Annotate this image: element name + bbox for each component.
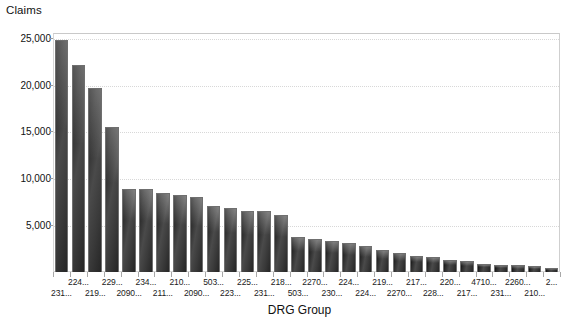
bar-highlight	[225, 209, 237, 233]
bar[interactable]	[105, 127, 119, 272]
x-axis-tick-label: 217...	[406, 277, 427, 287]
x-axis-tick-label: 225...	[237, 277, 258, 287]
bar[interactable]	[291, 237, 305, 272]
bar-highlight	[157, 194, 169, 224]
bar-highlight	[258, 212, 270, 235]
x-axis-tick-label: 2260...	[505, 277, 530, 287]
x-axis-tick-mark	[560, 272, 561, 277]
x-axis-tick-label: 210...	[169, 277, 190, 287]
bar[interactable]	[173, 195, 187, 272]
bar[interactable]	[443, 260, 457, 272]
bar[interactable]	[257, 211, 271, 272]
x-axis-tick-label: 224...	[355, 288, 376, 298]
y-axis-tick-label: 15,000	[5, 126, 51, 137]
bar-highlight	[512, 266, 524, 268]
y-axis-tick-label: 20,000	[5, 79, 51, 90]
bar[interactable]	[376, 250, 390, 272]
bar[interactable]	[207, 206, 221, 272]
bar[interactable]	[393, 253, 407, 272]
y-axis-tick-label: 10,000	[5, 173, 51, 184]
y-axis-tick-label: 25,000	[5, 32, 51, 43]
bar[interactable]	[122, 189, 136, 272]
bar-highlight	[461, 262, 473, 266]
bar[interactable]	[55, 40, 69, 272]
bar-highlight	[191, 198, 203, 226]
bar[interactable]	[477, 264, 491, 272]
x-axis-tick-label: 210...	[524, 288, 545, 298]
bar-highlight	[89, 89, 101, 158]
x-axis-tick-label: 503...	[288, 288, 309, 298]
bar[interactable]	[410, 256, 424, 272]
bar[interactable]	[359, 246, 373, 272]
bar[interactable]	[426, 257, 440, 272]
x-axis-tick-label: 224...	[68, 277, 89, 287]
x-axis-tick-label: 219...	[85, 288, 106, 298]
bar[interactable]	[308, 239, 322, 272]
bar-highlight	[242, 212, 254, 235]
bar-highlight	[275, 216, 287, 237]
bar[interactable]	[342, 243, 356, 272]
x-axis-tick-label: 231...	[254, 288, 275, 298]
x-axis-tick-label: 211...	[153, 288, 173, 298]
bar[interactable]	[494, 265, 508, 272]
bar-highlight	[292, 238, 304, 251]
bar-highlight	[427, 258, 439, 263]
bar-highlight	[208, 207, 220, 232]
bar-highlight	[546, 269, 558, 270]
x-axis-tick-label: 218...	[271, 277, 292, 287]
bar-highlight	[123, 190, 135, 221]
y-axis-tick-label: 5,000	[5, 220, 51, 231]
bar[interactable]	[325, 241, 339, 272]
bar-highlight	[411, 257, 423, 263]
bar-highlight	[326, 242, 338, 253]
bar-chart: Claims 5,00010,00015,00020,00025,000 231…	[0, 0, 579, 328]
bar-highlight	[377, 251, 389, 259]
bar-highlight	[73, 66, 85, 144]
x-axis-tick-label: 231...	[491, 288, 512, 298]
bar-highlight	[343, 244, 355, 254]
bar-highlight	[394, 254, 406, 261]
bar[interactable]	[139, 189, 153, 272]
bar-highlight	[309, 240, 321, 252]
x-axis-title: DRG Group	[0, 303, 579, 317]
bar[interactable]	[460, 261, 474, 272]
x-axis-tick-label: 2090...	[116, 288, 141, 298]
bar[interactable]	[156, 193, 170, 272]
x-axis-tick-label: 229...	[102, 277, 123, 287]
bar[interactable]	[241, 211, 255, 272]
x-axis-tick-label: 2090...	[184, 288, 209, 298]
x-axis-tick-label: 217...	[457, 288, 478, 298]
x-axis-tick-label: 224...	[338, 277, 359, 287]
bar-highlight	[56, 41, 68, 129]
x-axis-tick-label: 4710...	[471, 277, 496, 287]
bar[interactable]	[190, 197, 204, 272]
bar-highlight	[174, 196, 186, 225]
x-axis-tick-label: 503...	[203, 277, 224, 287]
x-axis-tick-label: 231...	[51, 288, 72, 298]
x-axis-tick-label: 2270...	[387, 288, 412, 298]
y-axis-tick-labels: 5,00010,00015,00020,00025,000	[0, 0, 51, 328]
bar-highlight	[140, 190, 152, 221]
bar-highlight	[529, 267, 541, 269]
bar-series	[53, 33, 560, 272]
bar[interactable]	[274, 215, 288, 272]
x-axis-tick-label: 230...	[322, 288, 343, 298]
x-axis-tick-label: 220...	[440, 277, 461, 287]
x-axis-tick-label: 228...	[423, 288, 444, 298]
x-axis-tick-label: 219...	[372, 277, 393, 287]
bar-highlight	[444, 261, 456, 265]
bar-highlight	[495, 266, 507, 268]
bar[interactable]	[224, 208, 238, 272]
x-axis-tick-label: 234...	[136, 277, 157, 287]
bar[interactable]	[88, 88, 102, 272]
bar-highlight	[360, 247, 372, 256]
x-axis-tick-label: 2...	[546, 277, 557, 287]
x-axis-tick-label: 2270...	[302, 277, 327, 287]
x-axis-tick-label: 223...	[220, 288, 241, 298]
bar-highlight	[106, 128, 118, 183]
x-axis-title-text: DRG Group	[248, 303, 331, 317]
bar-highlight	[478, 265, 490, 268]
bar[interactable]	[72, 65, 86, 272]
